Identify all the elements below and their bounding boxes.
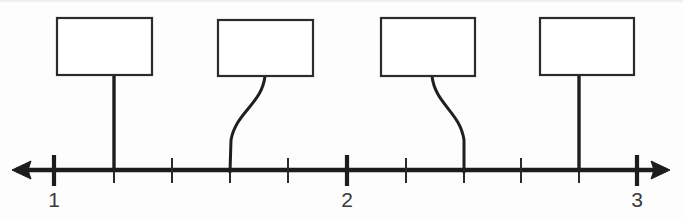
callout-box-2[interactable] — [218, 20, 313, 76]
callout-box-1[interactable] — [57, 18, 152, 75]
callout-stem-2 — [230, 76, 265, 172]
axis-label-2: 2 — [341, 188, 353, 211]
left-arrowhead-icon — [12, 161, 31, 179]
axis-label-3: 3 — [631, 188, 643, 211]
callout-box-4[interactable] — [540, 18, 634, 75]
number-line-diagram: 1 2 3 — [0, 0, 683, 220]
axis-label-1: 1 — [48, 188, 60, 211]
callout-stem-3 — [432, 76, 464, 172]
right-arrowhead-icon — [651, 161, 670, 179]
diagram-canvas: 1 2 3 — [0, 0, 683, 220]
callout-box-3[interactable] — [381, 18, 475, 76]
